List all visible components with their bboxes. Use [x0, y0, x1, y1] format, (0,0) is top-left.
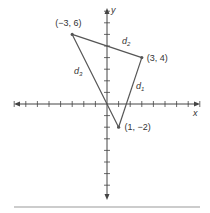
x-axis-left-arrow-icon [14, 102, 20, 107]
y-axis-label: y [110, 5, 116, 15]
y-axis-down-arrow-icon [105, 194, 110, 200]
segment-d1 [119, 58, 142, 128]
x-axis-label: x [192, 108, 198, 118]
x-axis-right-arrow-icon [194, 102, 200, 107]
vertex-point [71, 33, 74, 36]
coordinate-plane: yx(−3, 6)(3, 4)(1, −2)d1d2d3 [0, 0, 210, 213]
vertex-point [140, 56, 143, 59]
point-label: (−3, 6) [55, 18, 81, 28]
vertex-point [117, 126, 120, 129]
point-label: (3, 4) [147, 53, 168, 63]
segment-label-d2: d2 [122, 36, 131, 47]
labels: yx(−3, 6)(3, 4)(1, −2)d1d2d3 [55, 5, 198, 132]
segment-label-d3: d3 [74, 66, 83, 77]
segment-d3 [72, 34, 118, 127]
segment-label-d1: d1 [136, 81, 144, 92]
point-label: (1, −2) [125, 122, 151, 132]
